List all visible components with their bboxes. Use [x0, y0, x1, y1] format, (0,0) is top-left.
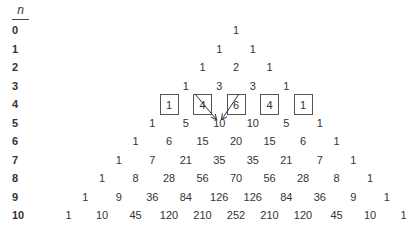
arrow-from-6	[222, 94, 239, 119]
arrow-from-4	[195, 94, 216, 119]
sum-arrows	[0, 0, 417, 232]
